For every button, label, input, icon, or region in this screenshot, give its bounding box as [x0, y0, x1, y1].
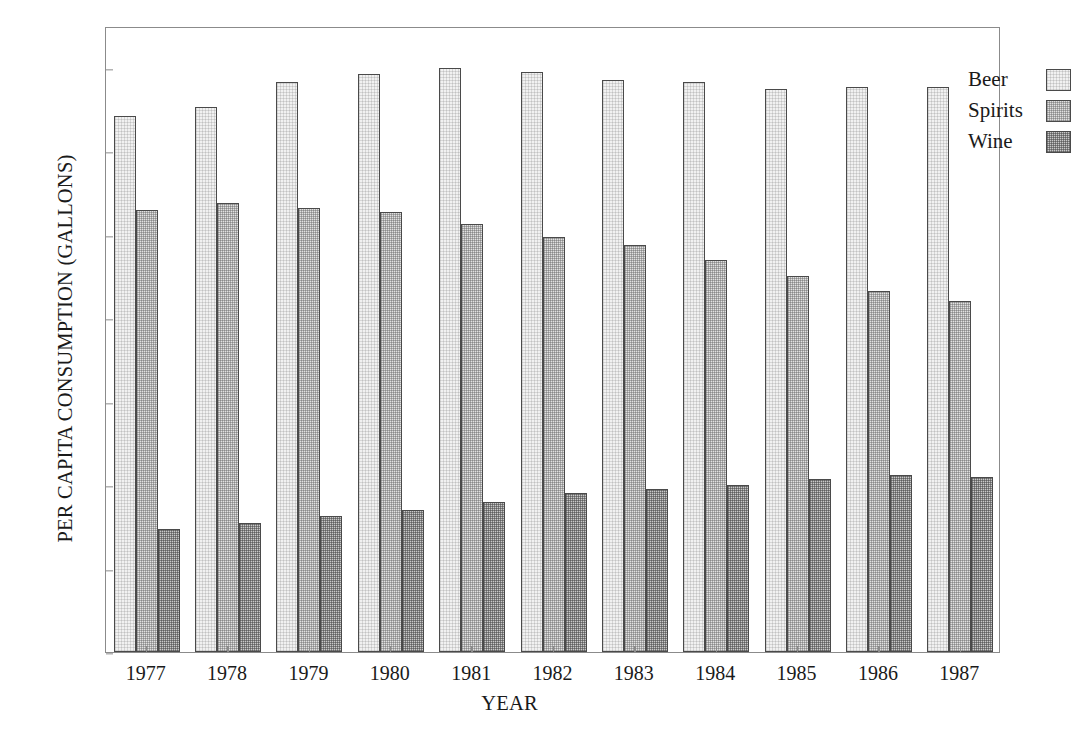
legend-item-beer: Beer [968, 64, 1075, 95]
y-tick-mark-1.0 [106, 236, 113, 237]
x-tick-mark-1980 [390, 646, 391, 653]
bar-spirits-1986 [868, 291, 890, 652]
bar-beer-1983 [602, 80, 624, 652]
x-tick-mark-1978 [227, 646, 228, 653]
bar-spirits-1979 [298, 208, 320, 652]
bar-wine-1984 [727, 485, 749, 652]
bar-wine-1978 [239, 523, 261, 652]
bar-wine-1981 [483, 502, 505, 652]
bar-beer-1987 [927, 87, 949, 652]
legend: Beer Spirits Wine [968, 64, 1075, 157]
bar-spirits-1985 [787, 276, 809, 652]
bar-wine-1980 [402, 510, 424, 652]
legend-item-wine: Wine [968, 126, 1075, 157]
bar-beer-1986 [846, 87, 868, 652]
x-tick-label-1978: 1978 [207, 662, 247, 685]
bar-spirits-1981 [461, 224, 483, 652]
x-tick-mark-1986 [878, 646, 879, 653]
bar-wine-1982 [565, 493, 587, 652]
legend-swatch-beer [1046, 69, 1071, 91]
bar-wine-1979 [320, 516, 342, 652]
bar-spirits-1984 [705, 260, 727, 652]
bar-wine-1987 [971, 477, 993, 652]
y-tick-mark-0.6 [106, 403, 113, 404]
x-tick-label-1979: 1979 [288, 662, 328, 685]
y-tick-mark-0.0 [106, 653, 113, 654]
y-tick-mark-0.8 [106, 319, 113, 320]
legend-item-spirits: Spirits [968, 95, 1075, 126]
legend-swatch-wine [1046, 131, 1071, 153]
y-tick-mark-0.4 [106, 486, 113, 487]
x-axis-title: YEAR [0, 692, 1019, 715]
legend-swatch-spirits [1046, 100, 1071, 122]
bar-spirits-1983 [624, 245, 646, 652]
legend-label-beer: Beer [968, 67, 1046, 92]
bar-beer-1979 [276, 82, 298, 652]
x-tick-label-1980: 1980 [370, 662, 410, 685]
x-tick-label-1987: 1987 [939, 662, 979, 685]
x-tick-label-1982: 1982 [533, 662, 573, 685]
y-tick-mark-1.2 [106, 153, 113, 154]
bar-spirits-1987 [949, 301, 971, 652]
bar-beer-1977 [114, 116, 136, 652]
x-tick-label-1986: 1986 [858, 662, 898, 685]
bar-spirits-1977 [136, 210, 158, 652]
x-tick-mark-1982 [553, 646, 554, 653]
x-tick-mark-1987 [960, 646, 961, 653]
legend-label-spirits: Spirits [968, 98, 1046, 123]
x-tick-mark-1977 [146, 646, 147, 653]
y-tick-mark-0.2 [106, 570, 113, 571]
x-tick-mark-1983 [634, 646, 635, 653]
bar-wine-1986 [890, 475, 912, 652]
bar-beer-1980 [358, 74, 380, 652]
bar-beer-1984 [683, 82, 705, 652]
bar-wine-1985 [809, 479, 831, 652]
x-tick-label-1985: 1985 [777, 662, 817, 685]
y-axis-title: PER CAPITA CONSUMPTION (GALLONS) [54, 69, 77, 629]
bar-spirits-1982 [543, 237, 565, 652]
x-tick-label-1984: 1984 [695, 662, 735, 685]
legend-label-wine: Wine [968, 129, 1046, 154]
x-tick-label-1977: 1977 [126, 662, 166, 685]
bar-beer-1982 [521, 72, 543, 652]
x-tick-mark-1979 [309, 646, 310, 653]
bar-wine-1983 [646, 489, 668, 652]
y-tick-mark-1.4 [106, 69, 113, 70]
bar-spirits-1980 [380, 212, 402, 652]
x-tick-mark-1981 [471, 646, 472, 653]
x-tick-mark-1985 [797, 646, 798, 653]
plot-area: Beer Spirits Wine [105, 27, 1000, 653]
bar-spirits-1978 [217, 203, 239, 652]
x-tick-mark-1984 [716, 646, 717, 653]
bar-beer-1985 [765, 89, 787, 652]
bar-beer-1981 [439, 68, 461, 652]
x-tick-label-1983: 1983 [614, 662, 654, 685]
bar-beer-1978 [195, 107, 217, 652]
bar-wine-1977 [158, 529, 180, 652]
x-tick-label-1981: 1981 [451, 662, 491, 685]
